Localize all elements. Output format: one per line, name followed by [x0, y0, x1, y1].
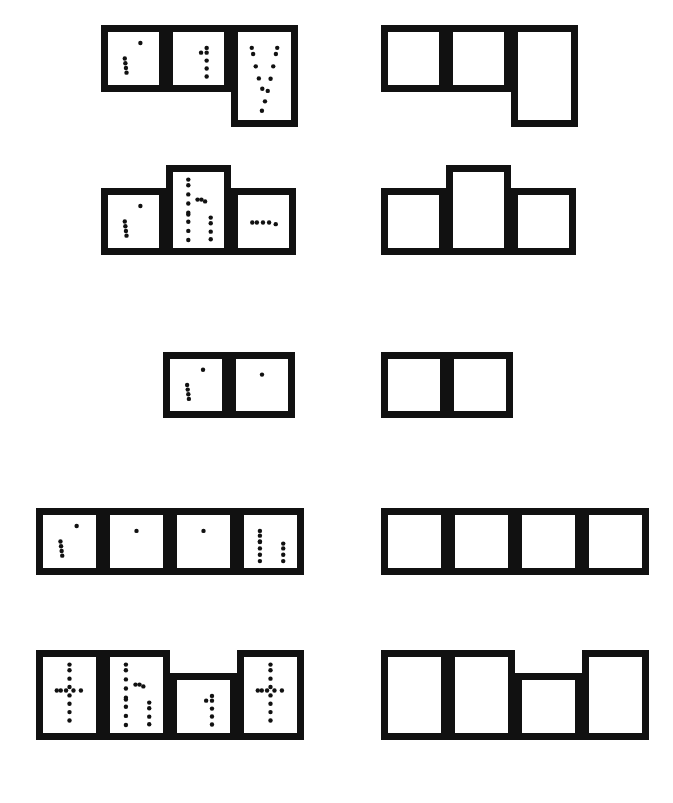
letter-box-she-0-s[interactable]: s — [101, 188, 166, 255]
letter-box-that-3-t[interactable]: t — [237, 650, 304, 740]
letter-box-so-1-o[interactable]: o — [229, 352, 295, 418]
worksheet-page: sayshesosoonthat — [0, 0, 673, 803]
empty-letter-box-she-0[interactable] — [381, 188, 446, 255]
letter-box-soon-2-o[interactable]: o — [170, 508, 237, 575]
empty-letter-box-soon-2[interactable] — [515, 508, 582, 575]
empty-letter-box-that-2[interactable] — [515, 673, 582, 740]
letter-box-that-0-t[interactable]: t — [36, 650, 103, 740]
letter-box-say-0-s[interactable]: s — [101, 25, 166, 92]
empty-letter-box-soon-3[interactable] — [582, 508, 649, 575]
empty-letter-box-that-3[interactable] — [582, 650, 649, 740]
empty-letter-box-say-1[interactable] — [446, 25, 511, 92]
letter-box-so-0-s[interactable]: s — [163, 352, 229, 418]
empty-letter-box-so-1[interactable] — [447, 352, 513, 418]
letter-box-say-1-a[interactable]: a — [166, 25, 231, 92]
empty-letter-box-she-2[interactable] — [511, 188, 576, 255]
letter-box-she-2-e[interactable]: e — [231, 188, 296, 255]
letter-box-say-2-y[interactable]: y — [231, 25, 298, 127]
empty-letter-box-that-1[interactable] — [448, 650, 515, 740]
letter-box-that-1-h[interactable]: h — [103, 650, 170, 740]
letter-box-soon-1-o[interactable]: o — [103, 508, 170, 575]
empty-letter-box-so-0[interactable] — [381, 352, 447, 418]
empty-letter-box-that-0[interactable] — [381, 650, 448, 740]
empty-letter-box-say-2[interactable] — [511, 25, 578, 127]
empty-letter-box-say-0[interactable] — [381, 25, 446, 92]
empty-letter-box-she-1[interactable] — [446, 165, 511, 255]
letter-box-soon-0-s[interactable]: s — [36, 508, 103, 575]
letter-box-that-2-a[interactable]: a — [170, 673, 237, 740]
letter-box-she-1-h[interactable]: h — [166, 165, 231, 255]
empty-letter-box-soon-1[interactable] — [448, 508, 515, 575]
letter-box-soon-3-n[interactable]: n — [237, 508, 304, 575]
empty-letter-box-soon-0[interactable] — [381, 508, 448, 575]
